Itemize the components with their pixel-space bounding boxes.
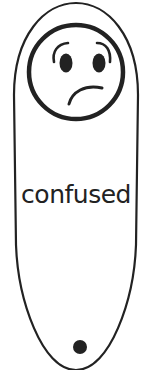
bottom-dot	[73, 340, 87, 354]
confused-face-icon	[29, 25, 123, 119]
emotion-label: confused	[0, 180, 152, 209]
